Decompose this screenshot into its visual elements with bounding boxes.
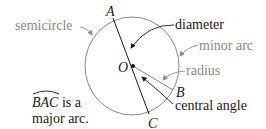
diameter-leader (131, 25, 174, 48)
label-radius: radius (186, 63, 220, 78)
point-label-o: O (118, 60, 128, 75)
semicircle-leader (80, 27, 92, 35)
label-minor-arc: minor arc (199, 38, 253, 53)
circle-diagram: A O B C semicircle diameter minor arc ra… (0, 0, 266, 129)
label-major-arc-line2: major arc. (32, 111, 89, 126)
label-semicircle: semicircle (15, 18, 73, 33)
arc-overline-symbol (33, 91, 59, 94)
label-central-angle: central angle (175, 98, 247, 113)
point-label-c: C (148, 116, 158, 129)
point-label-a: A (105, 4, 115, 19)
radius-leader (163, 71, 185, 80)
label-major-arc-name: BAC is a (32, 95, 82, 110)
minor-arc-leader (180, 45, 198, 56)
label-diameter: diameter (175, 17, 224, 32)
center-point (131, 64, 135, 68)
